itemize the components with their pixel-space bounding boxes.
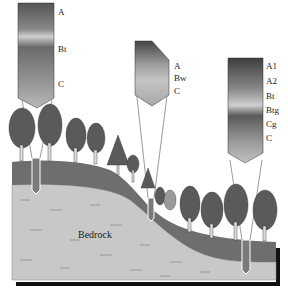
horizon-label: A1 [266, 62, 277, 71]
profile-midslope [135, 41, 169, 106]
bedrock-label: Bedrock [78, 229, 112, 240]
horizon-label: Bt [58, 45, 67, 54]
horizon-label: A2 [266, 77, 277, 86]
horizon-label: A [58, 8, 65, 17]
horizon-label: C [174, 87, 180, 96]
horizon-label: A [174, 62, 181, 71]
profile-upland [18, 3, 54, 108]
horizon-label: C [58, 80, 64, 89]
horizon-label: Bt [266, 92, 275, 101]
horizon-label: Btg [266, 106, 279, 115]
horizon-label: C [266, 134, 272, 143]
soil-catena-diagram [0, 0, 288, 291]
profile-lowland [228, 58, 263, 163]
horizon-label: Cg [266, 120, 277, 129]
horizon-label: Bw [174, 74, 187, 83]
